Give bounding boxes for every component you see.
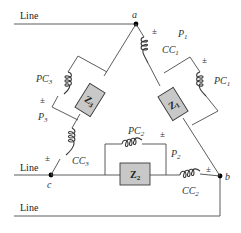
pc3-polarity: ± [40, 95, 45, 105]
cc3-label: CC3 [72, 155, 89, 168]
line-b-label: Line [20, 202, 39, 213]
node-c-label: c [47, 179, 52, 190]
pc1-loop-wire-bottom [192, 96, 218, 125]
node-b-label: b [225, 171, 230, 182]
impedance-z1: Z1 [158, 87, 188, 120]
current-coil-cc3 [66, 128, 75, 155]
potential-coil-pc1 [197, 72, 206, 96]
line-c-label: Line [20, 162, 39, 173]
current-coil-cc1 [141, 37, 148, 63]
pc1-loop-wire-top [164, 57, 200, 73]
potential-coil-pc3 [64, 72, 71, 94]
line-a-label: Line [20, 10, 39, 21]
pc3-loop-wire-bottom [52, 96, 78, 120]
cc2-polarity: ± [206, 164, 211, 174]
p2-label: P2 [170, 148, 181, 161]
potential-coil-pc2 [122, 138, 142, 147]
delta-wattmeter-circuit: Line Line Line a c b Z3 PC3 ± P3 CC3 ± Z… [0, 0, 241, 233]
pc3-loop-wire [68, 56, 107, 72]
branch-ac-wire-top [104, 24, 136, 76]
pc2-label: PC2 [127, 125, 145, 138]
pc1-polarity: ± [202, 55, 207, 65]
pc2-polarity: ± [160, 129, 165, 139]
cc3-polarity: ± [45, 153, 50, 163]
pc1-label: PC1 [213, 75, 230, 88]
branch-ac-wire-mid [72, 114, 80, 128]
branch-ab-wire-top [136, 24, 144, 37]
current-coil-cc2 [180, 169, 200, 178]
branch-cb-wire-right [200, 174, 220, 176]
branch-ab-wire-upper [148, 63, 160, 86]
line-b-wire [14, 176, 220, 216]
cc1-label: CC1 [162, 44, 179, 57]
node-a-label: a [132, 9, 137, 20]
impedance-z3: Z3 [75, 83, 105, 116]
p3-label: P3 [37, 111, 48, 124]
pc3-label: PC3 [35, 73, 53, 86]
cc2-label: CC2 [182, 185, 199, 198]
branch-ab-wire-lower [183, 118, 220, 176]
pc2-loop-wire-left [105, 144, 122, 175]
branch-ac-wire-bottom [51, 159, 60, 175]
cc1-polarity: ± [152, 26, 157, 36]
p1-label: P1 [177, 28, 188, 41]
